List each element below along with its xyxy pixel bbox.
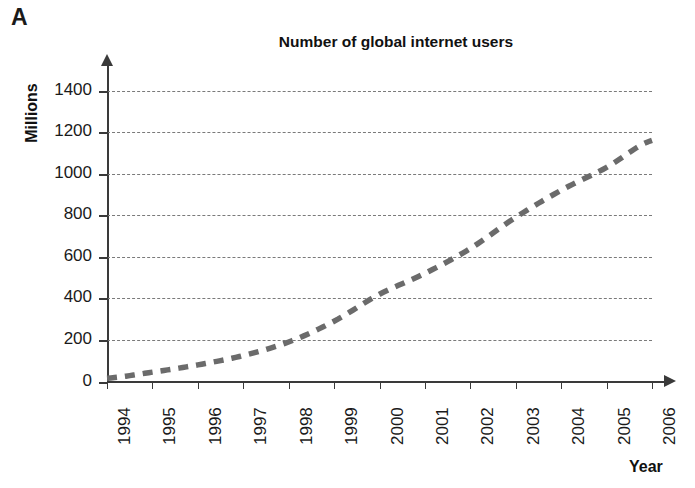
y-tick-mark (99, 298, 108, 300)
x-tick-label: 1998 (297, 407, 317, 445)
x-tick-mark (607, 381, 608, 389)
chart-title: Number of global internet users (231, 33, 561, 51)
x-tick-label: 2006 (660, 407, 680, 445)
x-tick-label: 2002 (478, 407, 498, 445)
x-tick-label: 2003 (524, 407, 544, 445)
gridline (107, 174, 652, 175)
x-tick-mark (470, 381, 471, 389)
y-axis-title: Millions (23, 58, 41, 168)
x-tick-mark (243, 381, 244, 389)
y-tick-mark (99, 215, 108, 217)
x-tick-label: 2000 (388, 407, 408, 445)
x-tick-mark (289, 381, 290, 389)
y-tick-label: 1200 (30, 121, 92, 141)
figure-panel-a: A Number of global internet users Millio… (0, 0, 695, 488)
y-tick-label: 1400 (30, 80, 92, 100)
gridline (107, 91, 652, 92)
x-tick-label: 2001 (433, 407, 453, 445)
x-tick-label: 2004 (569, 407, 589, 445)
x-tick-mark (425, 381, 426, 389)
y-tick-mark (99, 174, 108, 176)
x-tick-mark (334, 381, 335, 389)
x-tick-mark (652, 381, 653, 389)
y-axis-line (107, 62, 109, 383)
y-tick-label: 0 (30, 371, 92, 391)
gridline (107, 257, 652, 258)
gridline (107, 298, 652, 299)
y-tick-label: 400 (30, 287, 92, 307)
x-tick-label: 1999 (342, 407, 362, 445)
y-tick-mark (99, 340, 108, 342)
gridline (107, 132, 652, 133)
gridline (107, 340, 652, 341)
y-tick-label: 1000 (30, 163, 92, 183)
x-tick-mark (380, 381, 381, 389)
y-tick-mark (99, 91, 108, 93)
y-axis-arrow-icon (101, 54, 113, 66)
y-tick-label: 200 (30, 329, 92, 349)
x-tick-label: 2005 (615, 407, 635, 445)
y-tick-label: 800 (30, 204, 92, 224)
x-tick-label: 1994 (115, 407, 135, 445)
y-tick-mark (99, 257, 108, 259)
x-axis-title: Year (629, 458, 663, 476)
x-tick-label: 1996 (206, 407, 226, 445)
gridline (107, 215, 652, 216)
y-tick-label: 600 (30, 246, 92, 266)
x-tick-mark (516, 381, 517, 389)
x-tick-mark (561, 381, 562, 389)
x-axis-arrow-icon (664, 375, 676, 387)
x-tick-mark (198, 381, 199, 389)
y-tick-mark (99, 132, 108, 134)
x-axis-line (107, 381, 667, 383)
x-tick-label: 1997 (251, 407, 271, 445)
internet-users-series (107, 140, 652, 378)
panel-label: A (11, 4, 28, 31)
x-tick-mark (152, 381, 153, 389)
x-tick-label: 1995 (160, 407, 180, 445)
x-tick-mark (107, 381, 108, 389)
